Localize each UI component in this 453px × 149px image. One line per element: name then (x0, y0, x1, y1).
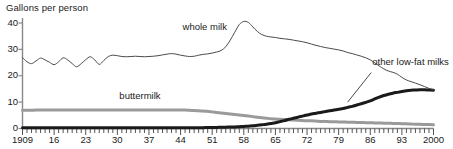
series-label-other-low-fat-milks: other low-fat milks (372, 56, 449, 67)
y-tick-label: 0 (2, 122, 18, 133)
series-label-whole-milk: whole milk (183, 21, 227, 32)
series-label-buttermilk: buttermilk (119, 90, 160, 101)
series-line (23, 110, 434, 125)
y-tick-label: 20 (2, 69, 18, 80)
y-tick-label: 10 (2, 96, 18, 107)
y-tick-label: 40 (2, 17, 18, 28)
axis-spine (23, 18, 434, 129)
y-tick-label: 30 (2, 43, 18, 54)
other-low-fat-leader-line (348, 73, 371, 103)
x-tick-label: 2000 (414, 134, 453, 145)
